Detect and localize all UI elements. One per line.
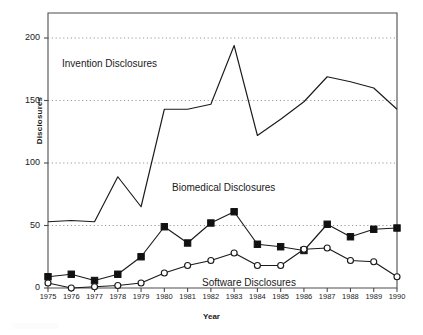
data-point-marker [347, 258, 353, 264]
data-point-marker [92, 284, 98, 290]
data-point-marker [208, 220, 214, 226]
y-axis-title: Disclosures [35, 76, 44, 166]
data-point-marker [394, 274, 400, 280]
series-annotation-biomedical: Biomedical Disclosures [172, 182, 275, 193]
data-point-marker [185, 263, 191, 269]
data-point-marker [394, 225, 400, 231]
data-point-marker [115, 283, 121, 289]
data-point-marker [184, 240, 190, 246]
y-tick-label: 0 [10, 282, 40, 292]
page-edge-artifact [12, 323, 58, 329]
x-axis-title: Year [0, 312, 423, 321]
data-point-marker [115, 271, 121, 277]
series-annotation-invention: Invention Disclosures [62, 58, 157, 69]
data-point-marker [208, 258, 214, 264]
series-line [48, 46, 397, 222]
data-point-marker [254, 241, 260, 247]
data-point-marker [138, 280, 144, 286]
data-point-marker [161, 224, 167, 230]
data-point-marker [68, 271, 74, 277]
data-point-marker [161, 270, 167, 276]
data-point-marker [91, 277, 97, 283]
y-tick-label: 150 [10, 95, 40, 105]
data-point-marker [324, 221, 330, 227]
y-tick-label: 200 [10, 32, 40, 42]
series-line [48, 212, 397, 281]
y-tick-label: 50 [10, 220, 40, 230]
data-point-marker [138, 254, 144, 260]
series-annotation-software: Software Disclosures [202, 277, 296, 288]
data-point-marker [45, 280, 51, 286]
data-point-marker [231, 250, 237, 256]
data-point-marker [371, 259, 377, 265]
data-point-marker [371, 226, 377, 232]
data-point-marker [68, 285, 74, 291]
y-tick-label: 100 [10, 157, 40, 167]
data-point-marker [231, 209, 237, 215]
data-point-marker [254, 263, 260, 269]
x-tick-label: 1990 [380, 292, 414, 301]
chart-container: Disclosures Year Invention Disclosures B… [0, 0, 423, 335]
data-point-marker [278, 263, 284, 269]
data-point-marker [277, 244, 283, 250]
data-point-marker [347, 234, 353, 240]
data-point-marker [45, 274, 51, 280]
data-point-marker [324, 245, 330, 251]
plot-frame [48, 13, 397, 288]
data-point-marker [301, 246, 307, 252]
